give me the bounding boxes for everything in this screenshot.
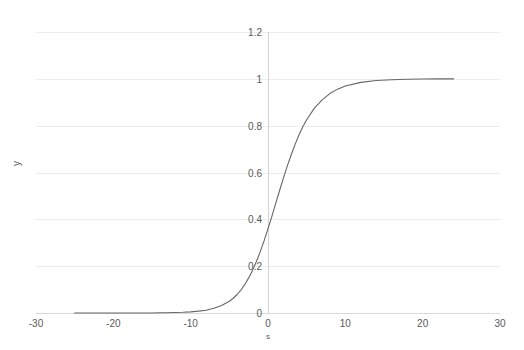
x-axis-title: s — [266, 332, 270, 341]
x-tick-label-20: 20 — [417, 318, 428, 329]
x-tick-label-0: 0 — [265, 318, 271, 329]
y-axis-title: y — [11, 161, 22, 166]
plot-area: 00.20.40.60.811.2 -30-20-100102030 s — [36, 32, 500, 313]
x-tick-label--20: -20 — [106, 318, 120, 329]
chart-container: y 00.20.40.60.811.2 -30-20-100102030 s — [0, 0, 524, 350]
series-line-y — [75, 79, 454, 313]
x-tick-label--30: -30 — [29, 318, 43, 329]
x-tick-label--10: -10 — [183, 318, 197, 329]
x-tick-label-30: 30 — [494, 318, 505, 329]
x-tick-label-10: 10 — [340, 318, 351, 329]
series-svg — [36, 32, 500, 313]
